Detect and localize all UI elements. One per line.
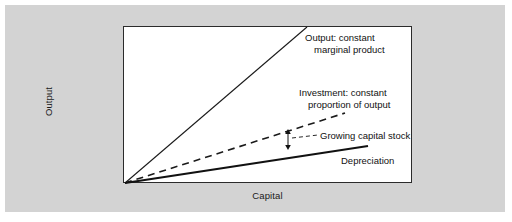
chart-svg [0,0,512,222]
investment-line [125,113,345,183]
growing-capital-stock-leader [292,135,318,138]
depreciation-label: Depreciation [341,155,394,167]
growing-capital-stock-label: Growing capital stock [320,130,410,142]
figure-root: Output Capital Output: constant marginal… [0,0,512,222]
investment-series-label-line1: Investment: constant [299,87,390,99]
output-series-label-line1: Output: constant [305,32,385,44]
investment-series-label-line2: proportion of output [299,99,390,111]
output-series-label-line2: marginal product [305,44,385,56]
investment-series-label: Investment: constant proportion of outpu… [299,87,390,110]
output-series-label: Output: constant marginal product [305,32,385,55]
x-axis-title: Capital [123,190,412,201]
y-axis-title: Output [43,42,54,162]
